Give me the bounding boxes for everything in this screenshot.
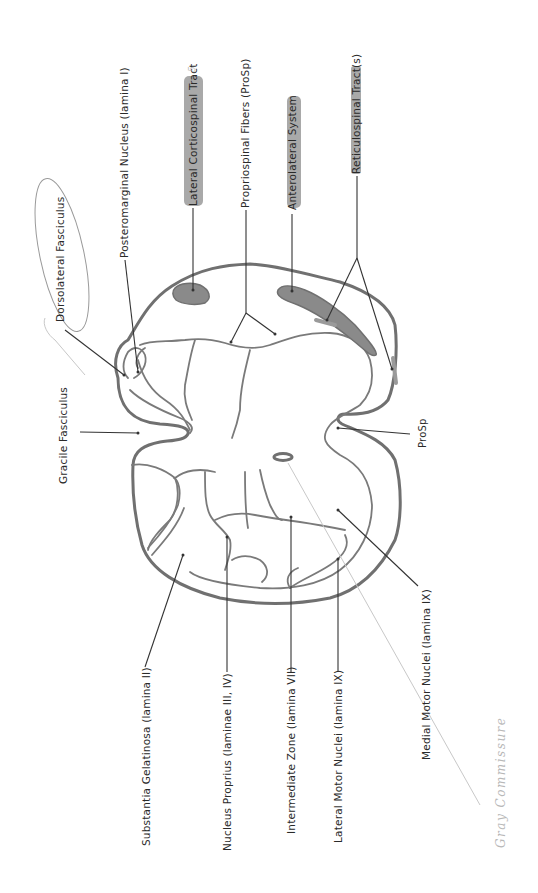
lateral-corticospinal-tract-region (173, 283, 209, 304)
label-lateral-corticospinal-tract: Lateral Corticospinal Tract (187, 64, 199, 206)
label-posteromarginal-nucleus: Posteromarginal Nucleus (lamina I) (118, 67, 130, 258)
label-gracile-fasciculus: Gracile Fasciculus (57, 387, 69, 484)
labels-top: Dorsolateral Fasciculus Posteromarginal … (54, 54, 362, 322)
label-intermediate-zone: Intermediate Zone (lamina VII) (285, 666, 297, 834)
spinal-cord-diagram: Dorsolateral Fasciculus Posteromarginal … (0, 0, 538, 893)
label-reticulospinal-tracts: Reticulospinal Tract(s) (350, 54, 362, 174)
labels-bottom: Substantia Gelatinosa (lamina II) Nucleu… (140, 589, 432, 851)
label-lateral-motor-nuclei: Lateral Motor Nuclei (lamina IX) (332, 670, 344, 843)
label-propriospinal-fibers: Propriospinal Fibers (ProSp) (239, 58, 251, 208)
tracts (173, 283, 396, 383)
label-anterolateral-system: Anterolateral System (286, 95, 298, 210)
label-medial-motor-nuclei: Medial Motor Nuclei (lamina IX) (420, 589, 432, 760)
handwritten-margin-mark: 5 (187, 65, 197, 72)
label-substantia-gelatinosa: Substantia Gelatinosa (lamina II) (140, 667, 152, 846)
label-prosp: ProSp (417, 418, 428, 448)
internal-lines (124, 333, 373, 589)
pencil-tick (44, 318, 85, 375)
central-canal (274, 454, 292, 461)
label-dorsolateral-fasciculus: Dorsolateral Fasciculus (54, 197, 66, 322)
handwritten-gray-commissure: Gray Commissure (494, 717, 508, 848)
label-nucleus-proprius: Nucleus Proprius (laminae III, IV) (221, 673, 233, 851)
pencil-annotations (24, 174, 480, 805)
gray-commissure-pointer (288, 463, 480, 805)
